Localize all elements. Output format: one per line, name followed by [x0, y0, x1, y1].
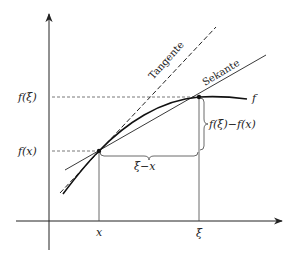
point-xi [197, 95, 201, 99]
function-curve [63, 97, 247, 194]
tangent-label: Tangente [146, 39, 186, 81]
x-label-xi: ξ [196, 227, 203, 240]
secant-line [65, 55, 266, 170]
y-label-f-xi: f(ξ) [17, 91, 37, 104]
point-x [97, 149, 101, 153]
brace-label-xi-minus-x: ξ−x [134, 160, 156, 173]
diagram-svg: f(ξ) f(x) x ξ f Tangente Sekante ξ−x f(ξ… [0, 0, 297, 258]
curve-label-f: f [251, 92, 258, 105]
brace-label-f-diff: f(ξ)−f(x) [208, 118, 256, 131]
horizontal-brace [100, 152, 198, 160]
y-label-f-x: f(x) [17, 145, 37, 158]
x-label-x: x [96, 226, 103, 239]
mean-value-diagram: f(ξ) f(x) x ξ f Tangente Sekante ξ−x f(ξ… [0, 0, 297, 258]
vertical-brace [200, 98, 208, 150]
